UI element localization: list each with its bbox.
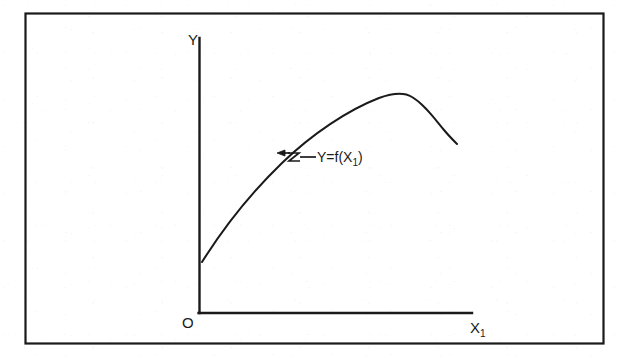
curve-equation-label: Y=f(X1) — [317, 149, 363, 168]
curve-equation-close: ) — [358, 149, 363, 165]
leader-arrowhead-icon — [277, 150, 285, 156]
figure-border — [26, 14, 604, 344]
graph-canvas: Y=f(X1) Y X1 O — [0, 0, 621, 358]
x-axis-label-subscript: 1 — [480, 328, 486, 339]
y-axis-label: Y — [188, 31, 198, 48]
figure-screenshot: Y=f(X1) Y X1 O — [0, 0, 621, 358]
function-curve — [202, 94, 457, 262]
annotation-leader — [277, 150, 316, 161]
curve-equation-main: Y=f(X — [317, 149, 353, 165]
x-axis-label: X1 — [470, 319, 486, 339]
x-axis-label-main: X — [470, 319, 480, 336]
origin-label: O — [182, 314, 194, 331]
